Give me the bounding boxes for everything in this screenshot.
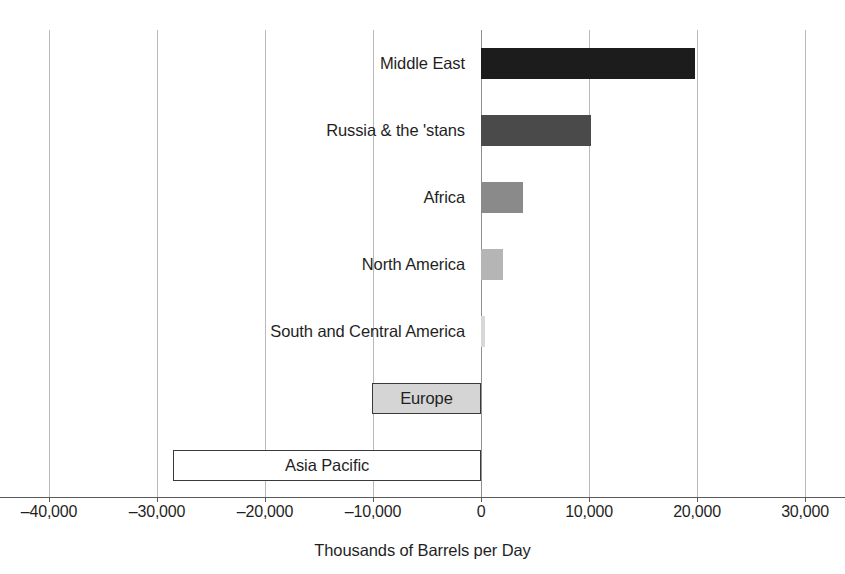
bar-category-label: North America bbox=[0, 249, 473, 280]
bar[interactable] bbox=[481, 182, 523, 213]
x-tick-label: 30,000 bbox=[781, 503, 829, 521]
tick-mark bbox=[805, 497, 806, 502]
x-axis-baseline bbox=[0, 497, 845, 498]
plot-area: Middle EastRussia & the 'stansAfricaNort… bbox=[0, 30, 845, 497]
x-tick-label: –10,000 bbox=[345, 503, 401, 521]
bar-row: Middle East bbox=[0, 30, 845, 97]
bar-category-label: Africa bbox=[0, 182, 473, 213]
tick-mark bbox=[589, 497, 590, 502]
bar-chart: Middle EastRussia & the 'stansAfricaNort… bbox=[0, 0, 845, 574]
x-tick-label: 20,000 bbox=[673, 503, 721, 521]
bar-row: Africa bbox=[0, 164, 845, 231]
bar[interactable] bbox=[481, 48, 695, 79]
bar-category-label: South and Central America bbox=[0, 316, 473, 347]
bar-row: Russia & the 'stans bbox=[0, 97, 845, 164]
bar-category-label: Europe bbox=[372, 383, 481, 414]
bar-row: Asia Pacific bbox=[0, 432, 845, 499]
tick-mark bbox=[697, 497, 698, 502]
bar[interactable] bbox=[481, 115, 591, 146]
bar[interactable] bbox=[481, 249, 503, 280]
bar-category-label: Asia Pacific bbox=[173, 450, 481, 481]
tick-mark bbox=[481, 497, 482, 502]
bar-category-label: Middle East bbox=[0, 48, 473, 79]
tick-mark bbox=[49, 497, 50, 502]
bar-row: Europe bbox=[0, 365, 845, 432]
x-tick-label: –40,000 bbox=[21, 503, 77, 521]
bar-category-label: Russia & the 'stans bbox=[0, 115, 473, 146]
x-tick-label: –30,000 bbox=[129, 503, 185, 521]
bar-row: North America bbox=[0, 231, 845, 298]
bar[interactable] bbox=[481, 316, 485, 347]
x-tick-label: 10,000 bbox=[565, 503, 613, 521]
x-tick-label: 0 bbox=[477, 503, 486, 521]
tick-mark bbox=[373, 497, 374, 502]
tick-mark bbox=[265, 497, 266, 502]
x-axis-title: Thousands of Barrels per Day bbox=[0, 541, 845, 560]
tick-mark bbox=[157, 497, 158, 502]
bar-row: South and Central America bbox=[0, 298, 845, 365]
x-tick-label: –20,000 bbox=[237, 503, 293, 521]
